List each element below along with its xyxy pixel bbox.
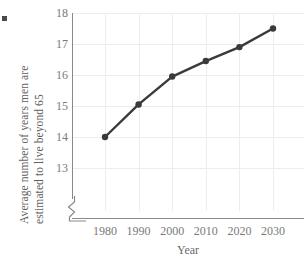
data-point-marker xyxy=(236,44,242,50)
data-point-marker xyxy=(169,73,175,79)
chart-plot-area xyxy=(0,0,304,256)
data-point-marker xyxy=(203,58,209,64)
data-point-marker xyxy=(135,101,141,107)
data-point-marker xyxy=(270,25,276,31)
data-point-marker xyxy=(102,134,108,140)
data-line-series xyxy=(105,29,273,138)
chart-figure: Average number of years men are estimate… xyxy=(0,0,304,256)
